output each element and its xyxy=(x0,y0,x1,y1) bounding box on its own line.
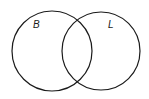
set-l-label: L xyxy=(108,19,114,30)
set-b-circle xyxy=(12,11,92,91)
set-b-label: B xyxy=(33,19,40,30)
set-l-circle xyxy=(62,12,140,90)
venn-diagram: B L xyxy=(0,0,149,99)
